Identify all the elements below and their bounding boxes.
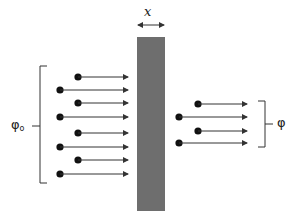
incident-flux-symbol: φ bbox=[11, 117, 20, 132]
incident-flux-subscript: o bbox=[20, 124, 25, 133]
absorber-slab bbox=[137, 37, 165, 211]
transmitted-flux-label: φ bbox=[277, 115, 286, 130]
attenuation-diagram bbox=[0, 0, 301, 223]
incident-flux-label: φo bbox=[11, 117, 24, 133]
incident-particles bbox=[56, 73, 128, 177]
thickness-label: x bbox=[144, 4, 151, 19]
transmitted-flux-bracket bbox=[258, 101, 273, 147]
transmitted-particles bbox=[175, 100, 247, 146]
incident-flux-bracket bbox=[32, 66, 47, 183]
